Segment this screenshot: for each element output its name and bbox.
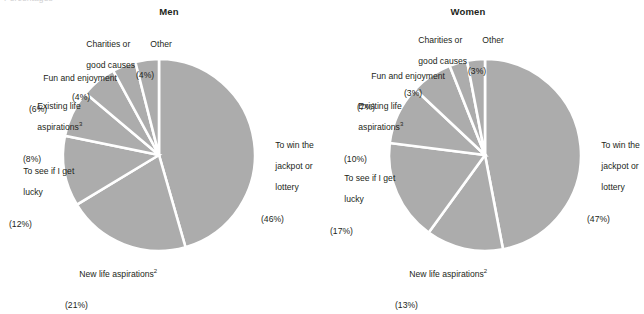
label-women-lucky-pct: (17%) xyxy=(330,226,395,237)
label-women-newlife-sup: 2 xyxy=(484,268,487,274)
label-men-charities-l2: good causes xyxy=(86,60,135,70)
label-women-win-pct: (47%) xyxy=(587,214,640,225)
label-women-charities-l2: good causes xyxy=(418,56,467,66)
label-men-newlife-pct: (21%) xyxy=(65,300,157,311)
label-men-charities: Charities or good causes (4%) xyxy=(72,28,135,123)
label-women-existing-pct: (10%) xyxy=(344,154,403,165)
label-men-win-l1: To win the xyxy=(275,140,314,150)
label-men-win-l3: lottery xyxy=(275,182,298,192)
label-men-lucky-l2: lucky xyxy=(23,187,43,197)
label-men-newlife-l1: New life aspirations xyxy=(79,269,154,279)
label-women-newlife-pct: (13%) xyxy=(395,300,487,311)
label-women-other: Other (3%) xyxy=(468,24,504,98)
label-women-lucky-l2: lucky xyxy=(344,194,364,204)
label-women-other-l1: Other xyxy=(482,35,504,45)
label-women-newlife: New life aspirations2 (13%) xyxy=(395,258,487,314)
label-women-other-pct: (3%) xyxy=(468,66,504,77)
chart-panel-women: Women To win the jackpot or lottery (47%… xyxy=(319,0,638,288)
label-men-charities-pct: (4%) xyxy=(72,92,135,103)
label-men-win: To win the jackpot or lottery (46%) xyxy=(261,129,314,246)
label-women-win: To win the jackpot or lottery (47%) xyxy=(587,129,640,246)
label-women-charities: Charities or good causes (3%) xyxy=(404,24,467,119)
label-men-charities-l1: Charities or xyxy=(86,39,130,49)
label-men-win-pct: (46%) xyxy=(261,214,314,225)
label-men-newlife: New life aspirations2 (21%) xyxy=(65,258,157,314)
label-women-charities-pct: (3%) xyxy=(404,88,467,99)
label-women-charities-l1: Charities or xyxy=(418,35,462,45)
label-men-newlife-sup: 2 xyxy=(154,268,157,274)
label-men-other-l1: Other xyxy=(150,39,172,49)
label-men-lucky-pct: (12%) xyxy=(9,219,74,230)
label-men-existing-pct: (8%) xyxy=(23,154,82,165)
label-men-win-l2: jackpot or xyxy=(275,161,312,171)
chart-panel-men: Men To win the jackpot or lottery (46%) … xyxy=(0,0,319,288)
label-women-win-l2: jackpot or xyxy=(601,161,638,171)
label-men-other: Other (4%) xyxy=(136,28,172,102)
label-women-win-l3: lottery xyxy=(601,182,624,192)
label-women-newlife-l1: New life aspirations xyxy=(409,269,484,279)
label-women-win-l1: To win the xyxy=(601,140,640,150)
label-men-other-pct: (4%) xyxy=(136,70,172,81)
